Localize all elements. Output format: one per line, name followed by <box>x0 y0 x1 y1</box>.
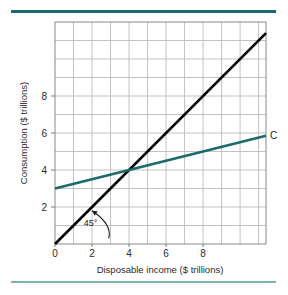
y-tick-label: 4 <box>41 165 47 176</box>
x-tick-label: 6 <box>163 248 169 259</box>
x-tick-label: 0 <box>52 248 58 259</box>
y-tick-labels: 2468 <box>41 91 55 213</box>
x-tick-label: 2 <box>89 248 95 259</box>
forty-five-degree-label: 45° <box>84 218 98 228</box>
plot-container: 02468 2468 45° C Disposable income ($ tr… <box>0 0 288 295</box>
x-tick-label: 8 <box>200 248 206 259</box>
x-axis-title: Disposable income ($ trillions) <box>97 264 224 275</box>
series-label-c: C <box>270 130 277 141</box>
y-tick-label: 8 <box>41 91 47 102</box>
x-tick-label: 4 <box>126 248 132 259</box>
y-tick-label: 6 <box>41 128 47 139</box>
y-tick-label: 2 <box>41 202 47 213</box>
chart-figure: 02468 2468 45° C Disposable income ($ tr… <box>0 0 288 295</box>
line-chart-svg: 02468 2468 45° C Disposable income ($ tr… <box>0 0 288 295</box>
x-tick-labels: 02468 <box>52 244 206 259</box>
y-axis-title: Consumption ($ trillions) <box>18 82 29 184</box>
